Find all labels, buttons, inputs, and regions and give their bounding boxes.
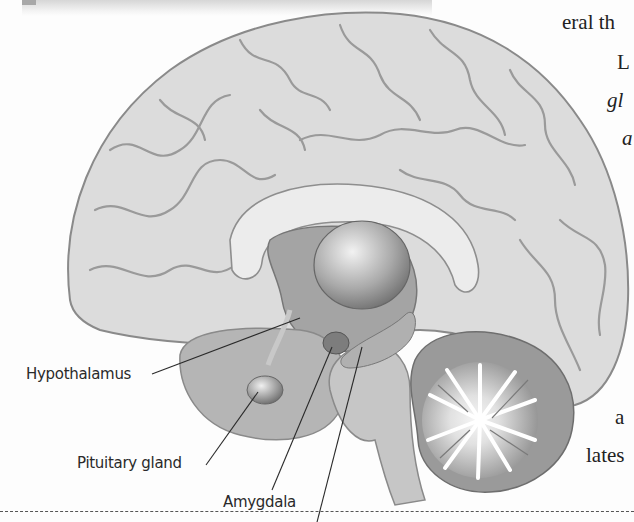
- body-text-fragment: a: [615, 405, 624, 430]
- amygdala-shape: [323, 332, 349, 354]
- section-divider: [0, 511, 634, 512]
- label-amygdala: Amygdala: [223, 493, 296, 511]
- body-text-fragment: L: [617, 50, 630, 75]
- label-pituitary-gland: Pituitary gland: [77, 454, 182, 472]
- textbook-page: Hypothalamus Pituitary gland Amygdala Hi…: [0, 0, 634, 522]
- brain-diagram: [0, 0, 634, 522]
- body-text-fragment: eral th: [562, 10, 615, 35]
- label-hypothalamus: Hypothalamus: [26, 365, 131, 383]
- body-text-fragment-italic: gl: [607, 88, 623, 113]
- brainstem: [329, 345, 425, 505]
- body-text-fragment: lates: [586, 443, 624, 468]
- body-text-fragment-italic: a: [622, 126, 633, 151]
- thalamus: [314, 221, 410, 309]
